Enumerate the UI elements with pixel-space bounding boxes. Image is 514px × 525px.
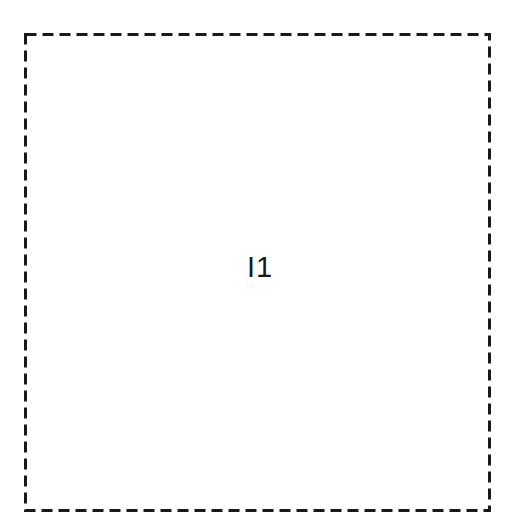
- diagram-canvas: I1: [0, 0, 514, 525]
- inner-solid-block[interactable]: I1: [69, 78, 447, 465]
- inner-block-label: I1: [247, 253, 273, 282]
